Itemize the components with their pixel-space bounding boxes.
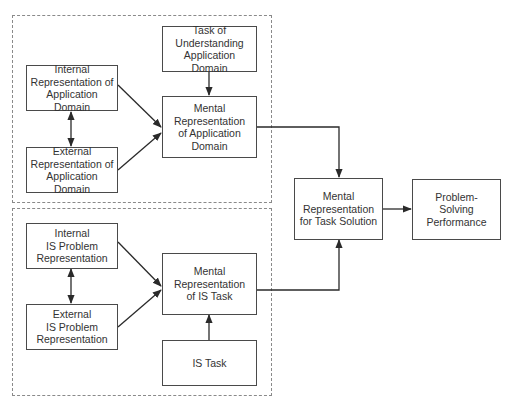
external-is-problem-representation-box: External IS Problem Representation [26,304,118,350]
mental-representation-task-solution-box: Mental Representation for Task Solution [294,178,383,240]
external-representation-application-domain-box: External Representation of Application D… [26,147,118,193]
is-task-box: IS Task [162,340,257,386]
internal-is-problem-representation-box: Internal IS Problem Representation [26,223,118,269]
task-of-understanding-application-domain-box: Task of Understanding Application Domain [162,26,257,72]
mental-representation-application-domain-box: Mental Representation of Application Dom… [162,96,257,158]
mental-representation-is-task-box: Mental Representation of IS Task [162,253,257,315]
problem-solving-performance-box: Problem- Solving Performance [412,179,501,240]
internal-representation-application-domain-box: Internal Representation of Application D… [26,65,118,111]
